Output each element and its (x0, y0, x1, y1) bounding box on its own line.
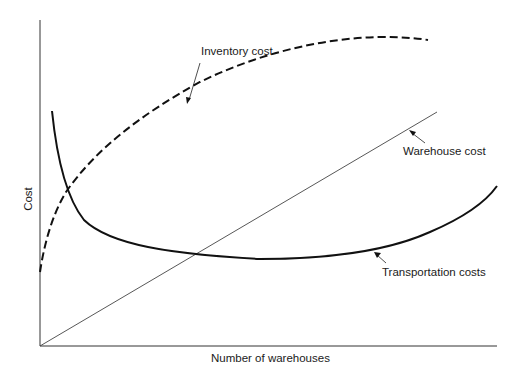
warehouse-cost-line (40, 112, 437, 346)
cost-chart: Inventory cost Warehouse cost Transporta… (0, 0, 518, 367)
transportation-costs-curve (52, 111, 497, 259)
y-axis-title: Cost (22, 186, 34, 210)
inventory-cost-arrowhead-icon (186, 97, 191, 104)
transportation-costs-label: Transportation costs (382, 266, 486, 278)
inventory-cost-arrow (189, 63, 200, 100)
inventory-cost-label: Inventory cost (201, 45, 273, 57)
warehouse-cost-label: Warehouse cost (403, 145, 486, 157)
inventory-cost-curve (40, 37, 428, 272)
x-axis-title: Number of warehouses (211, 352, 330, 364)
